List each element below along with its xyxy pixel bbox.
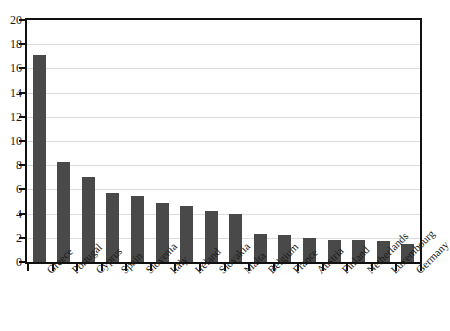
bar [33, 55, 46, 262]
bars-container [27, 20, 420, 262]
x-axis-labels: GreecePortugalCyprusSpainSloveniaItalyIr… [0, 268, 430, 331]
